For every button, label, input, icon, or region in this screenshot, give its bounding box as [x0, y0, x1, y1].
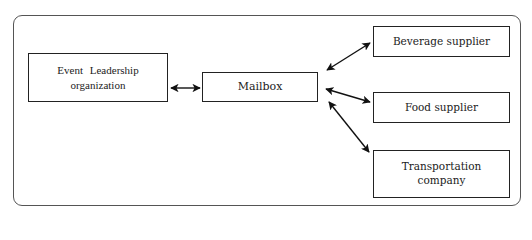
node-label: Mailbox	[238, 80, 283, 94]
node-beverage-supplier: Beverage supplier	[373, 26, 510, 57]
node-food-supplier: Food supplier	[373, 92, 510, 123]
node-label-line2: company	[402, 174, 482, 188]
node-label-line2: organization	[57, 78, 138, 92]
node-label-line1: Event Leadership	[57, 63, 138, 77]
node-label: Food supplier	[405, 101, 478, 115]
node-mailbox: Mailbox	[202, 72, 318, 102]
node-transportation-company: Transportation company	[373, 150, 510, 198]
node-label-line1: Transportation	[402, 160, 482, 174]
node-event-leadership-organization: Event Leadership organization	[28, 53, 168, 102]
node-label: Beverage supplier	[393, 35, 490, 49]
